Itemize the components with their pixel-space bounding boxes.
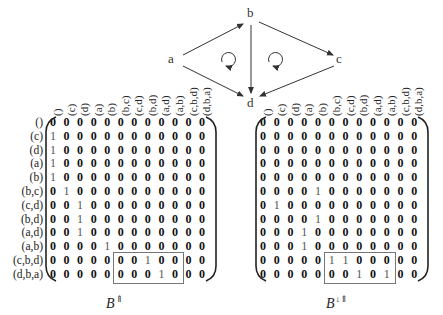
right-matrix-left-paren [256, 117, 266, 281]
right-matrix-right-paren [418, 117, 428, 281]
left-matrix-left-paren [46, 117, 56, 281]
matrix-caption-right: B↓⇑ [326, 294, 348, 312]
caption-base: B [326, 296, 335, 311]
caption-superscript: ↓⇑ [336, 294, 348, 304]
matrix-caption-left: B⇑ [106, 294, 123, 312]
matrix-brackets [0, 0, 443, 315]
caption-superscript: ⇑ [116, 294, 124, 304]
left-matrix-right-paren [206, 117, 216, 281]
caption-base: B [106, 296, 115, 311]
